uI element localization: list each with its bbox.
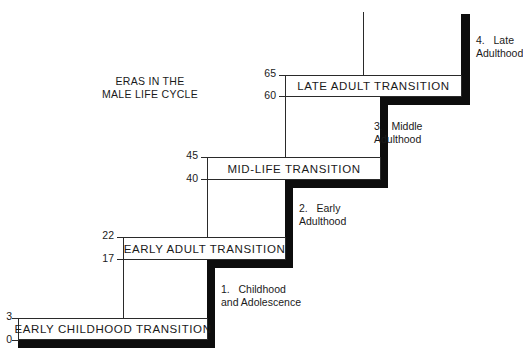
age-label-60: 60 <box>256 89 276 101</box>
age-tick <box>201 157 208 158</box>
age-label-3: 3 <box>0 310 12 322</box>
connector-line-4 <box>363 12 364 76</box>
transition-label: LATE ADULT TRANSITION <box>297 80 449 92</box>
age-label-17: 17 <box>94 252 114 264</box>
stair-riser-2 <box>285 180 293 268</box>
stair-tread-4 <box>380 96 470 105</box>
transition-box-late-adult: LATE ADULT TRANSITION <box>285 75 462 97</box>
age-label-65: 65 <box>256 67 276 79</box>
era-label-childhood: 1. Childhood and Adolescence <box>221 283 301 309</box>
age-tick <box>117 259 124 260</box>
age-tick <box>12 340 19 341</box>
transition-label: MID-LIFE TRANSITION <box>227 163 360 175</box>
era-label-early-adulthood: 2. Early Adulthood <box>299 202 346 228</box>
age-tick <box>279 75 286 76</box>
transition-box-early-childhood: EARLY CHILDHOOD TRANSITION <box>18 318 208 340</box>
age-tick <box>279 96 286 97</box>
age-label-45: 45 <box>178 149 198 161</box>
stair-tread-3 <box>285 179 388 188</box>
age-tick <box>12 318 19 319</box>
era-label-late-adulthood: 4. Late Adulthood <box>476 34 523 60</box>
title-line-2: MALE LIFE CYCLE <box>80 88 220 101</box>
stair-base-bar <box>18 339 215 348</box>
stair-riser-4 <box>461 14 470 105</box>
age-tick <box>117 237 124 238</box>
age-label-0: 0 <box>0 333 12 345</box>
age-label-22: 22 <box>94 229 114 241</box>
age-label-40: 40 <box>178 172 198 184</box>
transition-label: EARLY CHILDHOOD TRANSITION <box>14 323 211 335</box>
diagram-title: ERAS IN THE MALE LIFE CYCLE <box>80 75 220 101</box>
transition-box-mid-life: MID-LIFE TRANSITION <box>207 157 381 180</box>
era-label-middle-adulthood: 3. Middle Adulthood <box>374 120 422 146</box>
transition-label: EARLY ADULT TRANSITION <box>124 243 286 255</box>
age-tick <box>201 179 208 180</box>
title-line-1: ERAS IN THE <box>80 75 220 88</box>
transition-box-early-adult: EARLY ADULT TRANSITION <box>123 237 286 260</box>
stair-tread-2 <box>207 259 293 268</box>
